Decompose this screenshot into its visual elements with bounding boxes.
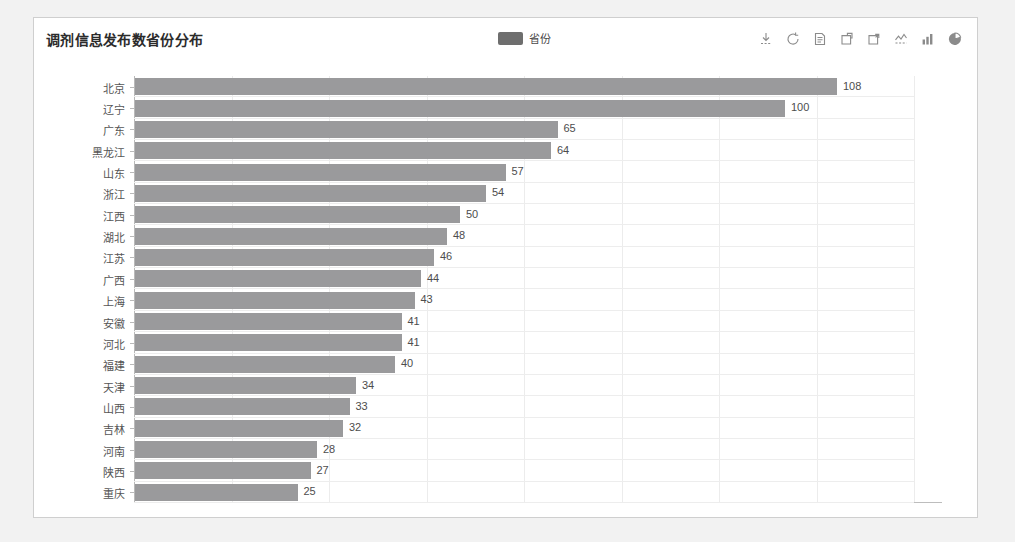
chart-bar-row[interactable]: 江西50 [134, 204, 914, 225]
y-axis-tick [130, 151, 134, 152]
y-axis-label: 北京 [103, 80, 125, 96]
chart-bar-row[interactable]: 浙江54 [134, 183, 914, 204]
chart-bar-row[interactable]: 陕西27 [134, 460, 914, 481]
y-axis-tick [130, 407, 134, 408]
y-axis-tick [130, 257, 134, 258]
bar[interactable] [135, 206, 460, 223]
y-axis-tick [130, 450, 134, 451]
bar-value-label: 54 [492, 186, 504, 198]
bar[interactable] [135, 398, 350, 415]
bar[interactable] [135, 228, 447, 245]
bar-value-label: 33 [356, 400, 368, 412]
bar-value-label: 43 [421, 293, 433, 305]
chart-bar-row[interactable]: 山东57 [134, 161, 914, 182]
bar[interactable] [135, 334, 402, 351]
grid-line-horizontal [134, 502, 914, 503]
y-axis-tick [130, 300, 134, 301]
bar[interactable] [135, 270, 421, 287]
chart-bar-row[interactable]: 北京108 [134, 76, 914, 97]
bar[interactable] [135, 377, 356, 394]
bar[interactable] [135, 441, 317, 458]
y-axis-label: 辽宁 [103, 101, 125, 117]
chart-bar-row[interactable]: 河南28 [134, 439, 914, 460]
y-axis-tick [130, 236, 134, 237]
chart-bar-row[interactable]: 广东65 [134, 119, 914, 140]
chart-bar-row[interactable]: 吉林32 [134, 418, 914, 439]
y-axis-label: 安徽 [103, 315, 125, 331]
chart-bar-row[interactable]: 安徽41 [134, 311, 914, 332]
y-axis-label: 广东 [103, 122, 125, 138]
bar-value-label: 32 [349, 421, 361, 433]
legend-swatch-province [498, 32, 523, 45]
bar[interactable] [135, 249, 434, 266]
bar[interactable] [135, 356, 395, 373]
y-axis-label: 江苏 [103, 250, 125, 266]
y-axis-label: 浙江 [103, 186, 125, 202]
chart-bar-row[interactable]: 广西44 [134, 268, 914, 289]
bar-value-label: 34 [362, 379, 374, 391]
y-axis-label: 天津 [103, 379, 125, 395]
bar[interactable] [135, 462, 311, 479]
bar[interactable] [135, 100, 785, 117]
refresh-icon[interactable] [785, 31, 801, 47]
chart-bar-row[interactable]: 上海43 [134, 290, 914, 311]
y-axis-tick [130, 343, 134, 344]
bar[interactable] [135, 164, 506, 181]
chart-bar-row[interactable]: 江苏46 [134, 247, 914, 268]
line-chart-icon[interactable] [893, 31, 909, 47]
bar-value-label: 108 [843, 80, 861, 92]
y-axis-tick [130, 386, 134, 387]
bar-value-label: 65 [564, 122, 576, 134]
bar[interactable] [135, 420, 343, 437]
y-axis-tick [130, 322, 134, 323]
chart-bar-row[interactable]: 黑龙江64 [134, 140, 914, 161]
bar[interactable] [135, 484, 298, 501]
zoom-select-icon[interactable] [839, 31, 855, 47]
bar-value-label: 64 [557, 144, 569, 156]
bar[interactable] [135, 78, 837, 95]
bar-value-label: 50 [466, 208, 478, 220]
chart-legend[interactable]: 省份 [498, 29, 551, 47]
legend-label-province: 省份 [529, 30, 551, 46]
bar-value-label: 41 [408, 315, 420, 327]
download-icon[interactable] [758, 31, 774, 47]
y-axis-label: 山东 [103, 165, 125, 181]
pie-chart-icon[interactable] [947, 31, 963, 47]
y-axis-label: 山西 [103, 400, 125, 416]
bar-value-label: 46 [440, 250, 452, 262]
y-axis-tick [130, 492, 134, 493]
bar[interactable] [135, 121, 558, 138]
chart-bar-row[interactable]: 福建40 [134, 354, 914, 375]
chart-bar-row[interactable]: 重庆25 [134, 482, 914, 503]
y-axis-label: 福建 [103, 357, 125, 373]
y-axis-label: 吉林 [103, 421, 125, 437]
chart-bar-row[interactable]: 天津34 [134, 375, 914, 396]
y-axis-tick [130, 87, 134, 88]
y-axis-label: 江西 [103, 208, 125, 224]
chart-bar-row[interactable]: 河北41 [134, 332, 914, 353]
bar-value-label: 48 [453, 229, 465, 241]
page-title: 调剂信息发布数省份分布 [46, 29, 203, 49]
y-axis-tick [130, 129, 134, 130]
y-axis-tick [130, 279, 134, 280]
bar[interactable] [135, 313, 402, 330]
y-axis-label: 广西 [103, 272, 125, 288]
bar[interactable] [135, 142, 551, 159]
chart-panel: 调剂信息发布数省份分布 省份 [33, 17, 978, 518]
grid-line-vertical [914, 76, 915, 503]
bar-value-label: 25 [304, 485, 316, 497]
chart-bar-row[interactable]: 湖北48 [134, 225, 914, 246]
bar[interactable] [135, 292, 415, 309]
bar[interactable] [135, 185, 486, 202]
chart-bar-row[interactable]: 辽宁100 [134, 97, 914, 118]
y-axis-label: 湖北 [103, 229, 125, 245]
bar-value-label: 44 [427, 272, 439, 284]
y-axis-tick [130, 215, 134, 216]
bar-chart-icon[interactable] [920, 31, 936, 47]
chart-toolbox[interactable] [758, 31, 963, 47]
y-axis-label: 重庆 [103, 485, 125, 501]
data-view-icon[interactable] [812, 31, 828, 47]
bar-value-label: 40 [401, 357, 413, 369]
chart-bar-row[interactable]: 山西33 [134, 396, 914, 417]
zoom-reset-icon[interactable] [866, 31, 882, 47]
